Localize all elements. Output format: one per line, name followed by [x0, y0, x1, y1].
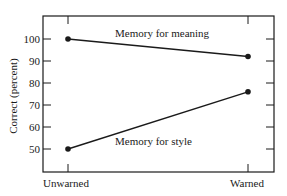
- y-tick-label-90: 90: [29, 55, 41, 67]
- x-ticks: [68, 16, 248, 172]
- y-ticks-right: [266, 39, 274, 149]
- y-tick-label-80: 80: [29, 77, 41, 89]
- data-point: [245, 54, 251, 60]
- x-category-unwarned: Unwarned: [43, 177, 89, 189]
- y-tick-label-70: 70: [29, 99, 41, 111]
- series-label-style: Memory for style: [115, 135, 192, 147]
- series-memory-for-meaning: [65, 36, 251, 59]
- chart: 100 90 80 70 60 50 Correct (percent) Unw…: [0, 0, 287, 196]
- y-ticks-left: [43, 39, 51, 149]
- y-tick-label-100: 100: [24, 33, 41, 45]
- y-tick-label-50: 50: [29, 143, 41, 155]
- data-point: [65, 36, 71, 42]
- y-axis-title: Correct (percent): [7, 58, 20, 134]
- x-category-warned: Warned: [230, 177, 264, 189]
- data-point: [245, 89, 251, 95]
- y-tick-label-60: 60: [29, 121, 41, 133]
- data-point: [65, 146, 71, 152]
- series-label-meaning: Memory for meaning: [115, 27, 210, 39]
